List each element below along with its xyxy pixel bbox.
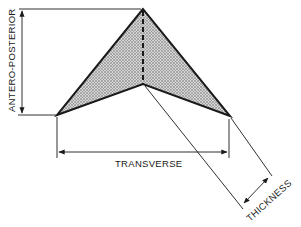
transverse-dimension: TRANSVERSE [57,117,229,169]
transverse-label: TRANSVERSE [115,158,182,169]
antero-posterior-label: ANTERO-POSTERIOR [6,8,17,112]
dimension-diagram: ANTERO-POSTERIOR TRANSVERSE THICKNESS [0,0,301,227]
thickness-label: THICKNESS [244,177,294,223]
arrowhead-shape [57,9,230,116]
